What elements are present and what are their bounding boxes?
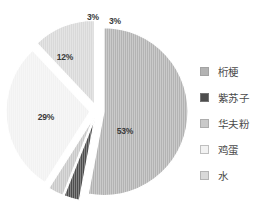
pie-chart: 53%3%3%29%12% 桁梗 紫苏子 华夫粉 鸡蛋 水: [0, 0, 267, 206]
legend-label-0: 桁梗: [218, 64, 239, 79]
legend-item-2[interactable]: 华夫粉: [200, 110, 267, 136]
legend-item-1[interactable]: 紫苏子: [200, 84, 267, 110]
legend-swatch-icon-2: [200, 119, 209, 128]
pie-slice-texture-0: [88, 28, 188, 196]
legend-swatch-icon-3: [200, 145, 209, 154]
legend-item-0[interactable]: 桁梗: [200, 58, 267, 84]
legend-swatch-icon-4: [200, 171, 209, 180]
legend-item-3[interactable]: 鸡蛋: [200, 136, 267, 162]
legend-label-2: 华夫粉: [218, 116, 249, 131]
legend-item-4[interactable]: 水: [200, 162, 267, 188]
pie-svg: [0, 0, 190, 206]
pie-slice-group: [6, 20, 188, 200]
legend-label-3: 鸡蛋: [218, 142, 239, 157]
chart-legend: 桁梗 紫苏子 华夫粉 鸡蛋 水: [200, 58, 267, 188]
legend-label-4: 水: [218, 168, 228, 183]
legend-label-1: 紫苏子: [218, 90, 249, 105]
pie-plot-area: 53%3%3%29%12%: [0, 0, 190, 206]
legend-swatch-icon-1: [200, 93, 209, 102]
legend-swatch-icon-0: [200, 67, 209, 76]
